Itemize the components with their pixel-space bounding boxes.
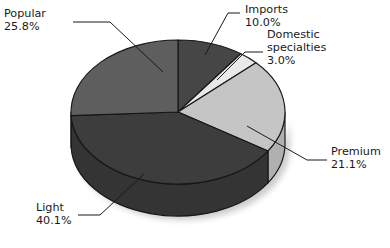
slice-label-popular: Popular25.8%: [4, 7, 46, 33]
slice-label-line: 21.1%: [331, 158, 367, 171]
slice-label-line: 40.1%: [36, 214, 72, 227]
slice-label-imports: Imports10.0%: [245, 3, 288, 29]
slice-label-line: Imports: [245, 3, 288, 16]
slice-label-line: 25.8%: [4, 20, 40, 33]
slice-label-line: Premium: [331, 145, 381, 158]
slice-label-line: Popular: [4, 7, 46, 20]
pie-chart-figure: Popular25.8%Imports10.0%Domesticspecialt…: [0, 0, 390, 248]
slice-label-domestic: Domesticspecialties3.0%: [267, 28, 326, 67]
slice-label-line: specialties: [267, 41, 326, 54]
pie-slice-popular[interactable]: [71, 40, 178, 116]
slice-label-light: Light40.1%: [36, 201, 72, 227]
slice-label-line: Domestic: [267, 28, 320, 41]
slice-label-line: Light: [36, 201, 65, 214]
pie-top-slices: [71, 40, 285, 184]
slice-label-premium: Premium21.1%: [331, 145, 381, 171]
slice-label-line: 3.0%: [267, 54, 296, 67]
pie-chart-canvas: Popular25.8%Imports10.0%Domesticspecialt…: [0, 0, 390, 248]
